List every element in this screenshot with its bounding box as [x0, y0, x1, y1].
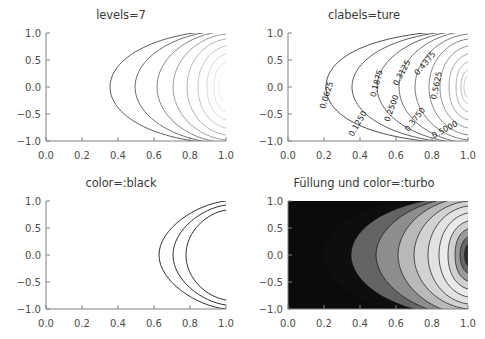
tick-marks — [46, 201, 226, 309]
contour-label: 0.3750 — [403, 106, 427, 134]
contour-label: 0.1875 — [369, 69, 385, 98]
ytick-label: −0.5 — [259, 109, 283, 120]
filled-contour-group — [288, 196, 468, 317]
xtick-label: 0.6 — [388, 318, 404, 329]
xtick-label: 0.6 — [388, 150, 404, 161]
plot-area-clabels: 1.0 0.5 0.0 −0.5 −1.0 0.0 0.2 0.4 0.6 0.… — [243, 8, 485, 170]
xtick-label: 1.0 — [460, 150, 476, 161]
contour-group: 0.0625 0.1250 0.1875 0.2500 0.3125 0.375… — [318, 30, 468, 144]
xtick-label: 0.2 — [316, 318, 332, 329]
xtick-label: 0.6 — [146, 318, 162, 329]
xtick-label: 1.0 — [218, 318, 234, 329]
xtick-label: 1.0 — [218, 150, 234, 161]
panel-fuellung-turbo: Füllung und color=:turbo 1.0 0.5 0.0 −0.… — [243, 176, 485, 338]
xtick-label: 0.8 — [424, 150, 440, 161]
contour-label: 0.2500 — [383, 93, 401, 122]
ytick-label: 1.0 — [25, 28, 41, 39]
ytick-label: 0.5 — [25, 55, 41, 66]
xtick-label: 1.0 — [460, 318, 476, 329]
plot-area-levels: 1.0 0.5 0.0 −0.5 −1.0 0.0 0.2 0.4 0.6 0.… — [0, 8, 242, 170]
xtick-label: 0.8 — [182, 150, 198, 161]
ytick-label: 0.0 — [25, 250, 41, 261]
ytick-label: −1.0 — [259, 304, 283, 315]
figure-canvas: levels=7 1.0 0.5 0.0 −0.5 −1.0 0.0 0.2 0… — [0, 0, 485, 339]
contour-group — [159, 201, 226, 309]
contour-group — [110, 30, 226, 144]
contour-label: 0.3125 — [391, 58, 412, 87]
ytick-label: −1.0 — [259, 136, 283, 147]
xtick-label: 0.4 — [352, 150, 368, 161]
xtick-label: 0.0 — [280, 150, 296, 161]
ytick-label: −0.5 — [17, 109, 41, 120]
xtick-label: 0.4 — [110, 318, 126, 329]
xtick-label: 0.0 — [38, 318, 54, 329]
xtick-label: 0.4 — [352, 318, 368, 329]
ytick-label: 0.5 — [25, 223, 41, 234]
ytick-label: 1.0 — [25, 196, 41, 207]
ytick-label: −0.5 — [259, 277, 283, 288]
plot-area-black: 1.0 0.5 0.0 −0.5 −1.0 0.0 0.2 0.4 0.6 0.… — [0, 176, 242, 338]
tick-marks — [46, 33, 226, 141]
contour-label: 0.5625 — [429, 71, 444, 100]
ytick-label: −1.0 — [17, 304, 41, 315]
ytick-label: 1.0 — [267, 196, 283, 207]
xtick-label: 0.2 — [74, 150, 90, 161]
ytick-label: 0.0 — [25, 82, 41, 93]
panel-clabels: clabels=ture 1.0 0.5 0.0 −0.5 −1.0 0.0 0… — [243, 8, 485, 170]
ytick-label: 0.0 — [267, 250, 283, 261]
panel-color-black: color=:black 1.0 0.5 0.0 −0.5 −1.0 0.0 0… — [0, 176, 242, 338]
xtick-label: 0.6 — [146, 150, 162, 161]
ytick-label: 1.0 — [267, 28, 283, 39]
ytick-label: −1.0 — [17, 136, 41, 147]
ytick-label: 0.5 — [267, 223, 283, 234]
ytick-label: −0.5 — [17, 277, 41, 288]
panel-levels-7: levels=7 1.0 0.5 0.0 −0.5 −1.0 0.0 0.2 0… — [0, 8, 242, 170]
xtick-label: 0.0 — [280, 318, 296, 329]
xtick-label: 0.2 — [316, 150, 332, 161]
xtick-label: 0.2 — [74, 318, 90, 329]
xtick-label: 0.8 — [182, 318, 198, 329]
contour-label: 0.1250 — [347, 109, 369, 138]
ytick-label: 0.5 — [267, 55, 283, 66]
ytick-label: 0.0 — [267, 82, 283, 93]
xtick-label: 0.4 — [110, 150, 126, 161]
plot-area-fill: 1.0 0.5 0.0 −0.5 −1.0 0.0 0.2 0.4 0.6 0.… — [243, 176, 485, 338]
xtick-label: 0.8 — [424, 318, 440, 329]
xtick-label: 0.0 — [38, 150, 54, 161]
